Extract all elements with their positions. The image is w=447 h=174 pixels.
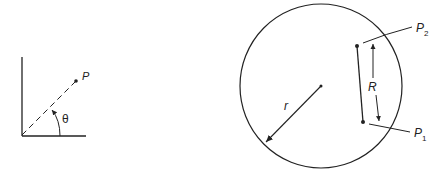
diagram-canvas: P θ r R P2 P1 (0, 0, 447, 174)
radius-arrow (266, 86, 321, 142)
circle-figure: r R P2 P1 (240, 4, 429, 168)
angle-arc (52, 110, 60, 136)
radius-r-label: r (284, 99, 289, 113)
point-p1-dot (361, 120, 365, 124)
p2-leader-line (363, 27, 412, 43)
point-p1-label: P1 (414, 126, 427, 143)
angle-theta-label: θ (62, 112, 69, 126)
polar-coordinate-figure: P θ (22, 57, 90, 136)
point-p2-dot (355, 44, 359, 48)
p2-subscript: 2 (424, 29, 429, 38)
chord-p2-p1 (357, 46, 363, 122)
distance-r-label: R (368, 80, 377, 94)
dashed-radius-line (22, 81, 76, 135)
distance-arrow-down (376, 95, 379, 121)
point-p-label: P (82, 70, 90, 82)
p1-subscript: 1 (422, 134, 427, 143)
point-p2-label: P2 (416, 21, 429, 38)
point-p-dot (74, 79, 78, 83)
